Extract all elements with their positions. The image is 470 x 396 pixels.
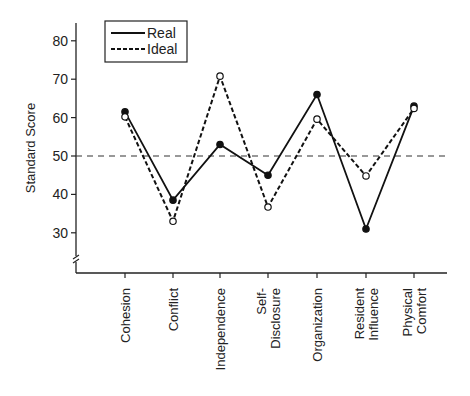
line-chart: 304050607080Standard ScoreCohesionConfli… [0, 0, 470, 396]
data-point-ideal [363, 173, 369, 179]
data-point-real [314, 91, 320, 97]
axis-break-icon [73, 255, 79, 263]
data-point-ideal [314, 116, 320, 122]
data-point-real [363, 226, 369, 232]
x-tick-label: Cohesion [118, 288, 133, 343]
x-tick-label: Conflict [166, 288, 181, 332]
y-tick-label: 50 [52, 148, 68, 164]
y-tick-label: 80 [52, 33, 68, 49]
data-point-real [217, 141, 223, 147]
y-tick-label: 70 [52, 71, 68, 87]
x-tick-label: Resident [352, 288, 367, 340]
data-point-ideal [265, 204, 271, 210]
data-point-ideal [411, 105, 417, 111]
data-point-ideal [122, 114, 128, 120]
legend: RealIdeal [105, 21, 187, 62]
series-line-ideal [125, 76, 414, 221]
x-tick-label: Self- [254, 288, 269, 315]
x-tick-label: Influence [366, 288, 381, 341]
data-point-ideal [217, 73, 223, 79]
y-tick-label: 60 [52, 110, 68, 126]
data-point-real [265, 172, 271, 178]
legend-label-real: Real [147, 25, 176, 41]
data-point-ideal [170, 218, 176, 224]
y-tick-label: 40 [52, 186, 68, 202]
data-point-real [170, 197, 176, 203]
x-tick-label: Comfort [414, 288, 429, 335]
x-tick-label: Independence [213, 288, 228, 370]
x-tick-label: Organization [310, 288, 325, 362]
y-axis-label: Standard Score [23, 103, 38, 193]
x-tick-label: Physical [400, 288, 415, 337]
x-tick-label: Disclosure [268, 288, 283, 349]
y-tick-label: 30 [52, 225, 68, 241]
legend-label-ideal: Ideal [147, 41, 177, 57]
